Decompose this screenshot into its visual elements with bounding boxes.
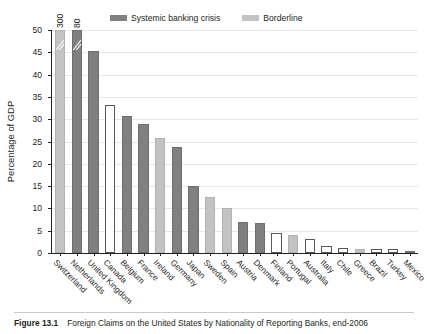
y-axis-tick: 15 — [48, 186, 52, 187]
x-axis-tick — [343, 253, 344, 256]
bar-slot — [138, 30, 148, 253]
x-axis-label: Chile — [335, 258, 355, 278]
legend-swatch-borderline — [242, 15, 259, 21]
x-axis-tick — [310, 253, 311, 256]
bar-slot — [188, 30, 198, 253]
chart-legend: Systemic banking crisis Borderline — [110, 11, 302, 25]
bar-slot — [122, 30, 132, 253]
x-axis-tick — [94, 253, 95, 256]
y-axis-tick-label: 5 — [37, 226, 42, 235]
y-axis-tick: 45 — [48, 52, 52, 53]
y-axis-tick-label: 35 — [32, 92, 42, 101]
bar-slot — [371, 30, 381, 253]
axis-break-marker — [56, 37, 64, 50]
axis-break-marker — [73, 37, 81, 50]
bar-slot: 80 — [72, 30, 82, 253]
bar[interactable] — [321, 246, 331, 253]
y-axis-tick: 30 — [48, 119, 52, 120]
bar-slot: 300 — [55, 30, 65, 253]
x-axis-tick — [110, 253, 111, 256]
bar-slot — [238, 30, 248, 253]
y-axis-tick-label: 25 — [32, 137, 42, 146]
y-axis-tick-label: 0 — [37, 249, 42, 258]
y-axis-tick: 10 — [48, 208, 52, 209]
bar-slot — [321, 30, 331, 253]
y-axis-title: Percentage of GDP — [5, 30, 17, 253]
bar[interactable] — [305, 239, 315, 253]
bar-slot — [338, 30, 348, 253]
bar[interactable] — [88, 51, 98, 253]
bar-slot — [88, 30, 98, 253]
bar[interactable] — [188, 186, 198, 253]
x-axis-tick — [376, 253, 377, 256]
y-axis-tick: 5 — [48, 231, 52, 232]
bar-slot — [222, 30, 232, 253]
bar[interactable] — [155, 138, 165, 253]
x-axis-tick — [193, 253, 194, 256]
bar[interactable] — [255, 223, 265, 253]
bar[interactable]: 300 — [55, 30, 65, 253]
bar-slot — [288, 30, 298, 253]
caption-label: Figure 13.1 — [14, 318, 58, 328]
x-axis-tick — [277, 253, 278, 256]
bar-slot — [405, 30, 415, 253]
bar[interactable] — [271, 233, 281, 253]
legend-label-systemic: Systemic banking crisis — [131, 14, 220, 23]
bar-slot — [105, 30, 115, 253]
figure-caption: Figure 13.1Foreign Claims on the United … — [14, 318, 420, 329]
legend-entry-systemic: Systemic banking crisis — [110, 14, 220, 23]
y-axis-tick: 40 — [48, 75, 52, 76]
y-axis-tick-label: 10 — [32, 204, 42, 213]
bar[interactable]: 80 — [72, 30, 82, 253]
x-axis-tick — [210, 253, 211, 256]
x-axis-tick — [60, 253, 61, 256]
x-axis-tick — [260, 253, 261, 256]
bar-slot — [172, 30, 182, 253]
y-axis-tick-label: 30 — [32, 115, 42, 124]
bar[interactable] — [122, 116, 132, 253]
bar[interactable] — [238, 222, 248, 253]
bar-slot — [271, 30, 281, 253]
y-axis-tick-label: 50 — [32, 26, 42, 35]
caption-divider — [14, 312, 414, 313]
y-axis-tick-label: 20 — [32, 159, 42, 168]
y-axis-tick: 35 — [48, 97, 52, 98]
x-axis-tick — [243, 253, 244, 256]
x-axis-tick — [410, 253, 411, 256]
y-axis-tick: 50 — [48, 30, 52, 31]
bar-value-label: 300 — [56, 14, 65, 28]
bar-slot — [155, 30, 165, 253]
bar[interactable] — [138, 124, 148, 253]
legend-entry-borderline: Borderline — [242, 14, 302, 23]
caption-text: Foreign Claims on the United States by N… — [67, 318, 368, 328]
x-axis-tick — [77, 253, 78, 256]
bar[interactable] — [222, 208, 232, 253]
figure-container: Systemic banking crisis Borderline Perce… — [0, 0, 427, 334]
bar-slot — [388, 30, 398, 253]
legend-label-borderline: Borderline — [263, 14, 302, 23]
x-axis-tick — [360, 253, 361, 256]
x-axis-tick — [327, 253, 328, 256]
y-axis-tick: 20 — [48, 164, 52, 165]
bar-slot — [305, 30, 315, 253]
x-axis-tick — [227, 253, 228, 256]
bar[interactable] — [105, 105, 115, 253]
x-axis-tick — [293, 253, 294, 256]
bar-value-label: 80 — [72, 18, 81, 28]
bar-slot — [205, 30, 215, 253]
bar[interactable] — [172, 147, 182, 253]
y-axis-tick-label: 45 — [32, 48, 42, 57]
bar-slot — [355, 30, 365, 253]
x-axis-tick — [144, 253, 145, 256]
x-axis-tick — [127, 253, 128, 256]
x-axis-tick — [177, 253, 178, 256]
bar[interactable] — [205, 197, 215, 253]
y-axis-tick: 0 — [48, 253, 52, 254]
y-axis-tick: 25 — [48, 142, 52, 143]
bar[interactable] — [288, 235, 298, 253]
y-axis-tick-label: 40 — [32, 70, 42, 79]
x-axis-tick — [393, 253, 394, 256]
y-axis-tick-label: 15 — [32, 182, 42, 191]
legend-swatch-systemic — [110, 15, 127, 21]
x-axis-line — [51, 253, 418, 254]
